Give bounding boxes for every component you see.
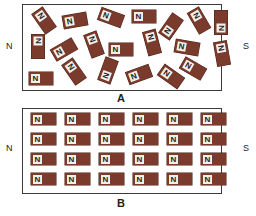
north-pole-marker: N bbox=[101, 115, 110, 124]
magnet-domain-aligned: N bbox=[201, 173, 226, 185]
panel-b-south-pole-label: S bbox=[243, 143, 249, 153]
north-pole-marker: N bbox=[135, 175, 144, 184]
magnet-domain-aligned: N bbox=[65, 173, 90, 185]
magnet-domain-aligned: N bbox=[133, 153, 158, 165]
magnet-domain-aligned: N bbox=[133, 113, 158, 125]
north-pole-marker: N bbox=[31, 74, 40, 83]
north-pole-marker: N bbox=[135, 115, 144, 124]
north-pole-marker: N bbox=[162, 25, 175, 38]
magnet-domain-aligned: N bbox=[99, 173, 124, 185]
north-pole-marker: N bbox=[169, 135, 178, 144]
magnet-domain-aligned: N bbox=[133, 133, 158, 145]
magnet-domain: N bbox=[215, 11, 228, 35]
north-pole-marker: N bbox=[216, 43, 226, 53]
north-pole-marker: N bbox=[203, 155, 212, 164]
north-pole-marker: N bbox=[67, 115, 76, 124]
north-pole-marker: N bbox=[101, 135, 110, 144]
magnet-domain-aligned: N bbox=[201, 133, 226, 145]
north-pole-marker: N bbox=[111, 45, 120, 54]
magnet-domain: N bbox=[132, 10, 156, 23]
north-pole-marker: N bbox=[33, 155, 42, 164]
magnet-domain-aligned: N bbox=[31, 153, 56, 165]
magnet-domain-aligned: N bbox=[167, 173, 192, 185]
north-pole-marker: N bbox=[67, 135, 76, 144]
north-pole-marker: N bbox=[169, 115, 178, 124]
magnet-domain-aligned: N bbox=[31, 113, 56, 125]
north-pole-marker: N bbox=[65, 61, 78, 74]
north-pole-marker: N bbox=[203, 135, 212, 144]
north-pole-marker: N bbox=[101, 175, 110, 184]
north-pole-marker: N bbox=[169, 155, 178, 164]
north-pole-marker: N bbox=[135, 155, 144, 164]
magnet-domain-aligned: N bbox=[65, 113, 90, 125]
panel-a-caption: A bbox=[117, 92, 125, 104]
magnet-domain-aligned: N bbox=[31, 173, 56, 185]
north-pole-marker: N bbox=[100, 70, 112, 82]
panel-a-north-pole-label: N bbox=[6, 41, 13, 51]
north-pole-marker: N bbox=[182, 60, 194, 72]
north-pole-marker: N bbox=[169, 175, 178, 184]
magnet-domain-aligned: N bbox=[99, 133, 124, 145]
north-pole-marker: N bbox=[203, 115, 212, 124]
magnet-domain-aligned: N bbox=[167, 133, 192, 145]
magnet-domain-aligned: N bbox=[65, 153, 90, 165]
panel-b-caption: B bbox=[117, 197, 125, 209]
north-pole-marker: N bbox=[100, 10, 112, 22]
panel-a-south-pole-label: S bbox=[243, 41, 249, 51]
north-pole-marker: N bbox=[67, 155, 76, 164]
magnet-domain-aligned: N bbox=[65, 133, 90, 145]
north-pole-marker: N bbox=[176, 41, 186, 51]
north-pole-marker: N bbox=[53, 46, 65, 58]
magnet-domain-aligned: N bbox=[201, 153, 226, 165]
north-pole-marker: N bbox=[33, 115, 42, 124]
north-pole-marker: N bbox=[86, 34, 98, 46]
panel-b-north-pole-label: N bbox=[6, 143, 13, 153]
magnet-domain-aligned: N bbox=[167, 113, 192, 125]
north-pole-marker: N bbox=[203, 175, 212, 184]
magnet-domain-aligned: N bbox=[201, 113, 226, 125]
north-pole-marker: N bbox=[135, 135, 144, 144]
north-pole-marker: N bbox=[35, 10, 48, 23]
north-pole-marker: N bbox=[33, 175, 42, 184]
north-pole-marker: N bbox=[128, 71, 140, 83]
north-pole-marker: N bbox=[190, 10, 202, 22]
north-pole-marker: N bbox=[160, 67, 173, 80]
north-pole-marker: N bbox=[33, 135, 42, 144]
magnet-domain: N bbox=[32, 35, 45, 59]
north-pole-marker: N bbox=[34, 37, 43, 46]
north-pole-marker: N bbox=[145, 32, 156, 43]
magnet-domain-aligned: N bbox=[31, 133, 56, 145]
magnet-domain-aligned: N bbox=[167, 153, 192, 165]
magnet-domain: N bbox=[29, 72, 53, 85]
north-pole-marker: N bbox=[101, 155, 110, 164]
north-pole-marker: N bbox=[67, 175, 76, 184]
north-pole-marker: N bbox=[134, 12, 143, 21]
magnet-domain: N bbox=[109, 43, 133, 56]
magnet-domain-aligned: N bbox=[99, 153, 124, 165]
magnet-domain-aligned: N bbox=[133, 173, 158, 185]
north-pole-marker: N bbox=[217, 24, 226, 33]
north-pole-marker: N bbox=[64, 16, 74, 26]
magnet-domain-aligned: N bbox=[99, 113, 124, 125]
magnet-domain: N bbox=[214, 41, 231, 67]
